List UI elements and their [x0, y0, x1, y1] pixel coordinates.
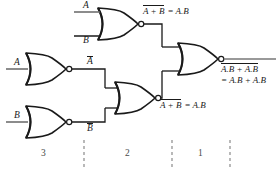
stage-number-3: 3	[41, 148, 46, 158]
inversion-bubble-inv-a	[67, 66, 72, 71]
stage-number-1: 1	[198, 148, 203, 158]
output-expr-line-1: A.B + A.B	[221, 63, 266, 75]
label-input-a-top: A	[83, 1, 89, 11]
label-expr-middle-gate: A + B= A.B	[160, 99, 206, 111]
label-input-b-top: B	[83, 36, 89, 46]
nor-gate-top	[98, 8, 144, 40]
wire-top-gate-to-output-gate	[144, 24, 162, 47]
nor-gate-output	[178, 43, 224, 75]
inversion-bubble-top	[139, 21, 144, 26]
wire-middle-gate-to-output-gate	[161, 71, 162, 98]
inversion-bubble-inv-b	[67, 119, 72, 124]
label-input-a: A	[14, 58, 20, 68]
wire-bbar	[72, 108, 105, 122]
wire-abar	[72, 69, 105, 88]
label-signal-a-bar: A	[87, 56, 93, 66]
label-expr-output: A.B + A.B = A.B + A.B	[221, 63, 266, 86]
output-expr-line-2: = A.B + A.B	[221, 75, 266, 86]
nor-inverter-a	[26, 53, 72, 85]
inversion-bubble-output	[219, 56, 224, 61]
label-signal-b-bar: B	[87, 123, 93, 133]
nor-inverter-b	[26, 106, 72, 138]
nor-gate-middle	[115, 82, 161, 114]
logic-circuit-diagram: A B A B A B A + B= A.B A + B= A.B A.B + …	[0, 0, 278, 171]
label-expr-top-gate: A + B= A.B	[143, 5, 189, 17]
label-input-b: B	[14, 111, 20, 121]
stage-number-2: 2	[125, 148, 130, 158]
